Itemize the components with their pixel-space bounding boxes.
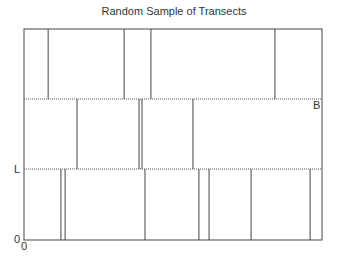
label-b: B <box>313 99 320 111</box>
transect-diagram: Random Sample of Transects B L 0 0 <box>0 0 338 261</box>
label-origin-y: 0 <box>14 233 20 245</box>
label-origin-x: 0 <box>21 240 27 252</box>
label-l: L <box>14 163 20 175</box>
diagram-title: Random Sample of Transects <box>102 5 247 17</box>
region-boundary <box>24 29 322 240</box>
transects-group <box>48 29 310 240</box>
